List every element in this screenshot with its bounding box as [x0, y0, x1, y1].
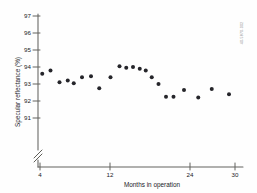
data-point: [58, 80, 62, 84]
x-tick-label-4: 4: [38, 171, 42, 178]
data-point: [66, 79, 70, 83]
data-point: [210, 87, 214, 91]
data-point: [196, 96, 200, 100]
figure-credit-label: 40-5870-002: [240, 22, 244, 45]
x-tick-label-30: 30: [232, 171, 239, 178]
data-point: [49, 68, 53, 72]
data-point: [144, 68, 148, 72]
data-point: [109, 75, 113, 79]
data-point: [164, 95, 168, 99]
figure-container: 97 96 95 94 93 92 91 4 12 24 30 Months i…: [0, 0, 257, 193]
scatter-plot: 97 96 95 94 93 92 91 4 12 24 30 Months i…: [0, 0, 257, 193]
y-tick-label-97: 97: [24, 12, 31, 19]
x-tick-label-12: 12: [107, 171, 114, 178]
data-point: [97, 86, 101, 90]
y-tick-label-96: 96: [24, 29, 31, 36]
data-point: [131, 65, 135, 69]
data-point: [227, 92, 231, 96]
data-point: [89, 74, 93, 78]
y-tick-label-92: 92: [24, 97, 31, 104]
y-tick-label-93: 93: [24, 80, 31, 87]
data-point: [118, 64, 122, 68]
y-axis-title: Specular reflectance (%): [14, 57, 22, 127]
data-point: [157, 82, 161, 86]
data-point: [72, 81, 76, 85]
y-tick-label-91: 91: [24, 114, 31, 121]
data-point: [182, 88, 186, 92]
x-tick-label-24: 24: [187, 171, 194, 178]
data-point: [172, 95, 176, 99]
data-point: [138, 67, 142, 71]
y-axis-ticks: [33, 16, 40, 118]
data-point: [40, 72, 44, 76]
data-points-layer: [40, 64, 231, 99]
y-tick-label-95: 95: [24, 46, 31, 53]
data-point: [150, 75, 154, 79]
data-point: [80, 75, 84, 79]
x-axis-title: Months in operation: [124, 181, 181, 189]
y-tick-label-94: 94: [24, 63, 31, 70]
data-point: [124, 66, 128, 70]
